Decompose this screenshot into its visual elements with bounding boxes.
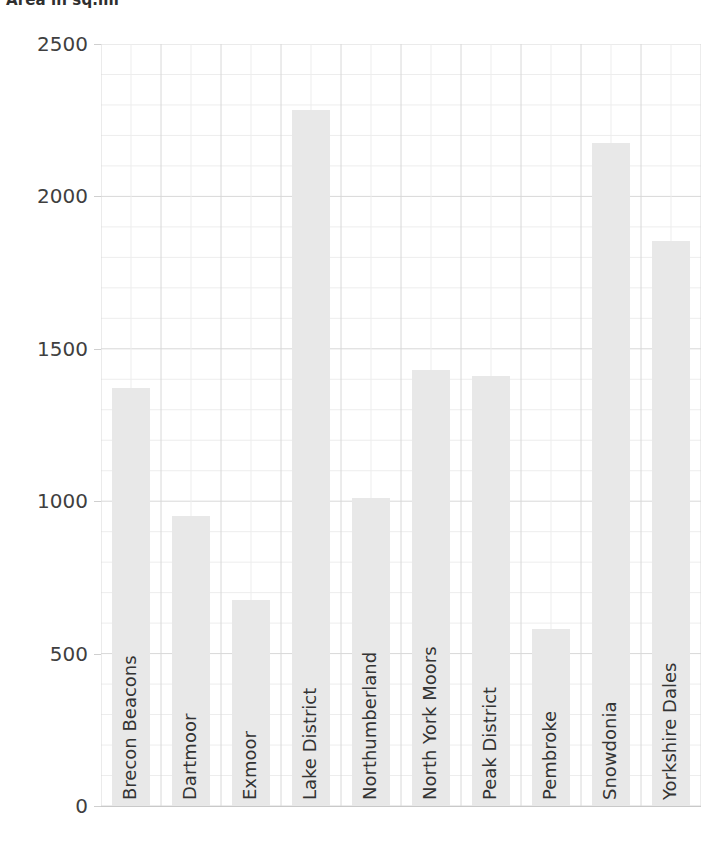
x-axis-line: [101, 806, 701, 807]
y-axis-tick-mark: [94, 349, 101, 350]
x-axis-tick-label: North York Moors: [421, 646, 439, 800]
x-axis-tick-label: Exmoor: [241, 731, 259, 800]
y-axis-tick-label: 2500: [37, 34, 88, 54]
y-axis-tick-mark: [94, 196, 101, 197]
y-axis-tick-label: 1500: [37, 339, 88, 359]
x-axis-tick-label: Brecon Beacons: [121, 655, 139, 800]
y-axis: 05001000150020002500: [0, 0, 101, 846]
x-axis-tick-label: Snowdonia: [601, 702, 619, 800]
y-axis-tick-mark: [94, 654, 101, 655]
bar-group[interactable]: Northumberland: [352, 44, 389, 806]
x-axis-tick-label: Lake District: [301, 688, 319, 800]
x-axis-tick-label: Dartmoor: [181, 714, 199, 800]
x-axis-tick-label: Northumberland: [361, 652, 379, 800]
x-axis-tick-label: Pembroke: [541, 711, 559, 800]
x-axis-tick-label: Peak District: [481, 687, 499, 800]
x-axis-tick-label: Yorkshire Dales: [661, 663, 679, 800]
y-axis-tick-label: 1000: [37, 491, 88, 511]
y-axis-tick-mark: [94, 501, 101, 502]
bars-layer: Brecon BeaconsDartmoorExmoorLake Distric…: [101, 44, 701, 806]
bar-group[interactable]: Peak District: [472, 44, 509, 806]
bar-group[interactable]: Dartmoor: [172, 44, 209, 806]
bar-group[interactable]: Exmoor: [232, 44, 269, 806]
y-axis-tick-label: 500: [50, 644, 88, 664]
bar-group[interactable]: North York Moors: [412, 44, 449, 806]
y-axis-tick-mark: [94, 44, 101, 45]
y-axis-tick-label: 2000: [37, 186, 88, 206]
bar-group[interactable]: Snowdonia: [592, 44, 629, 806]
y-axis-tick-mark: [94, 806, 101, 807]
bar-group[interactable]: Brecon Beacons: [112, 44, 149, 806]
bar-group[interactable]: Pembroke: [532, 44, 569, 806]
bar-group[interactable]: Yorkshire Dales: [652, 44, 689, 806]
bar-chart: Area in sq.mi 05001000150020002500 Breco…: [0, 0, 707, 846]
y-axis-tick-label: 0: [75, 796, 88, 816]
bar-group[interactable]: Lake District: [292, 44, 329, 806]
